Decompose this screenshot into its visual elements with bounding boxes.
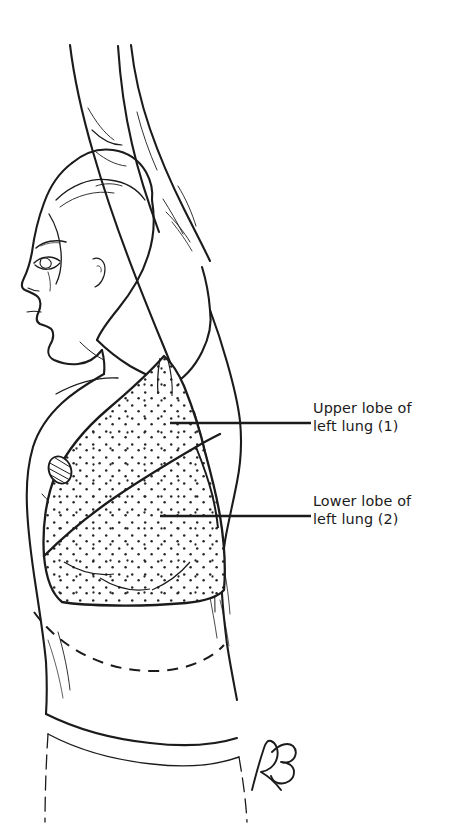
waistband-bottom bbox=[48, 734, 239, 766]
lower-garment-left bbox=[45, 734, 48, 822]
nostril bbox=[28, 288, 39, 291]
hair-fringe-line bbox=[56, 179, 145, 200]
arm-muscle-line-1 bbox=[88, 108, 114, 140]
left-lung-field bbox=[20, 340, 250, 630]
lower-garment-right bbox=[239, 757, 247, 822]
neck-front bbox=[102, 350, 104, 374]
lip-line bbox=[27, 311, 41, 312]
eye-crease bbox=[48, 272, 50, 291]
label-upper-lobe-line2: left lung (1) bbox=[313, 418, 399, 434]
label-lower-lobe: Lower lobe ofleft lung (2) bbox=[313, 493, 411, 528]
label-lower-lobe-line2: left lung (2) bbox=[313, 511, 399, 527]
ear bbox=[93, 258, 105, 287]
ear-inner bbox=[97, 266, 101, 272]
arm-inner-edge bbox=[70, 45, 173, 370]
anatomical-illustration: Upper lobe ofleft lung (1) Lower lobe of… bbox=[0, 0, 463, 838]
eyebrow bbox=[36, 241, 66, 248]
axilla-fold-2 bbox=[172, 222, 192, 251]
elbow-crease-2 bbox=[96, 152, 126, 166]
waistband-top bbox=[46, 714, 237, 745]
diaphragm-dashed-line bbox=[34, 612, 224, 671]
label-upper-lobe: Upper lobe ofleft lung (1) bbox=[313, 400, 412, 435]
abdomen-crease-2 bbox=[48, 640, 63, 698]
hairline-temple bbox=[49, 214, 61, 284]
arm-fold-1 bbox=[163, 199, 183, 234]
label-upper-lobe-line1: Upper lobe of bbox=[313, 400, 412, 416]
arm-outer-edge bbox=[131, 45, 210, 261]
hair-strand-2 bbox=[96, 184, 122, 186]
deltoid-outline bbox=[170, 267, 211, 386]
elbow-crease-1 bbox=[92, 130, 122, 145]
iris bbox=[40, 258, 51, 268]
clavicle-line bbox=[56, 378, 118, 394]
label-lower-lobe-line1: Lower lobe of bbox=[313, 493, 411, 509]
axilla-fold-1 bbox=[166, 212, 190, 242]
deltoid-crease-1 bbox=[178, 186, 196, 226]
artist-signature bbox=[252, 741, 296, 790]
